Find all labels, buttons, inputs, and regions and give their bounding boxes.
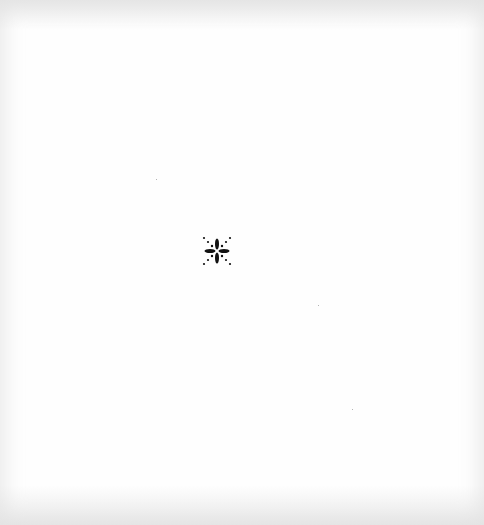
document-page <box>0 0 484 525</box>
paper-speck <box>156 179 157 180</box>
paper-speck <box>318 305 319 306</box>
paper-speck <box>352 409 353 410</box>
fleuron-asterisk-icon <box>200 234 234 268</box>
